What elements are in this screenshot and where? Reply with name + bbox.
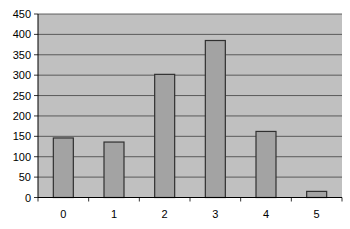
- x-tick-label: 2: [162, 208, 168, 220]
- y-tick-label: 100: [13, 151, 31, 163]
- x-tick-label: 0: [60, 208, 66, 220]
- y-tick-label: 300: [13, 69, 31, 81]
- bar-3: [205, 41, 225, 198]
- x-tick-label: 5: [314, 208, 320, 220]
- y-tick-label: 350: [13, 49, 31, 61]
- y-tick-label: 0: [25, 192, 31, 204]
- bar-0: [53, 138, 73, 198]
- plot-area: [38, 14, 342, 198]
- y-axis-labels: 050100150200250300350400450: [13, 8, 38, 204]
- bar-4: [256, 131, 276, 197]
- y-tick-label: 150: [13, 130, 31, 142]
- y-tick-label: 200: [13, 110, 31, 122]
- bar-chart: 050100150200250300350400450 012345: [0, 0, 350, 229]
- x-tick-label: 4: [263, 208, 269, 220]
- y-tick-label: 400: [13, 28, 31, 40]
- bar-2: [155, 74, 175, 197]
- x-tick-label: 3: [212, 208, 218, 220]
- y-tick-label: 450: [13, 8, 31, 20]
- x-tick-label: 1: [111, 208, 117, 220]
- y-tick-label: 50: [19, 171, 31, 183]
- x-axis-labels: 012345: [60, 208, 319, 220]
- bar-5: [307, 191, 327, 197]
- y-tick-label: 250: [13, 90, 31, 102]
- bar-1: [104, 142, 124, 197]
